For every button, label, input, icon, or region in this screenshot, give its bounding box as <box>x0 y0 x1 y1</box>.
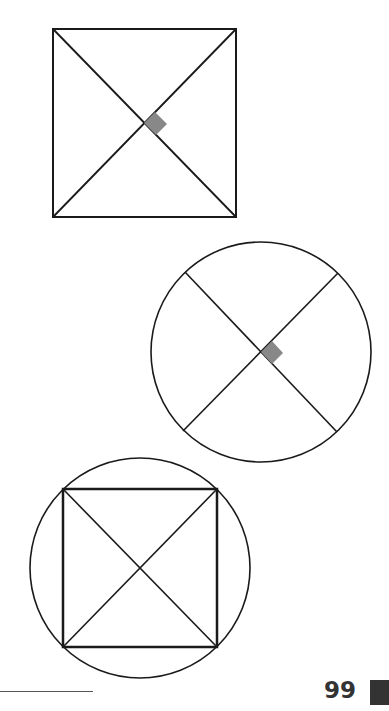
page-tab-marker <box>370 680 389 705</box>
right-angle-marker <box>144 112 167 135</box>
page-number: 99 <box>324 677 356 703</box>
geometry-figures <box>0 0 389 711</box>
square-inscribed-in-circle <box>30 458 250 678</box>
diameter-2 <box>183 273 338 431</box>
footer-rule <box>0 691 93 692</box>
circle-with-perpendicular-diameters <box>151 242 371 462</box>
square-with-diagonals <box>53 29 236 217</box>
right-angle-marker <box>261 341 283 364</box>
